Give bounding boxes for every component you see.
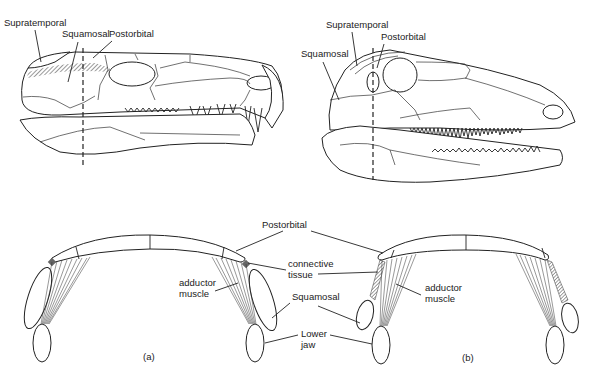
leader-adductor-b — [396, 284, 421, 295]
section-b-squamosal-left — [353, 298, 376, 331]
skull-b: Supratemporal Postorbital Squamosal — [301, 19, 575, 182]
section-a-lower-jaw-left — [33, 324, 51, 362]
section-b-lower-jaw-right — [546, 326, 564, 364]
section-a-lower-jaw-right — [246, 324, 264, 362]
label-adductor-b-line2: muscle — [425, 293, 455, 304]
leader-lower-jaw-b — [330, 335, 372, 344]
section-a-roof — [51, 235, 245, 262]
label-connective-line1: connective — [288, 258, 333, 269]
section-a-adductor-muscle-right — [212, 257, 256, 324]
panel-label-a: (a) — [143, 351, 155, 362]
leader-squamosal-b — [323, 62, 339, 100]
label-postorbital-section: Postorbital — [262, 219, 307, 230]
section-b: adductor muscle (b) — [353, 235, 581, 364]
section-b-lower-jaw-left — [372, 326, 390, 364]
skull-a-lower-jaw — [20, 114, 255, 154]
skull-b-lower-jaw — [322, 126, 563, 182]
figure: Supratemporal Squamosal Postorbital Su — [0, 0, 594, 377]
section-b-connective-tissue-right — [547, 260, 568, 303]
skull-b-naris — [543, 105, 563, 119]
leader-postorbital-b — [311, 231, 383, 253]
leader-adductor-a — [215, 283, 238, 291]
skull-a-orbit — [109, 62, 155, 86]
leader-postorbital-a — [236, 231, 283, 251]
section-b-squamosal-right — [559, 302, 581, 335]
section-a-squamosal-left — [19, 264, 58, 331]
section-b-connective-tissue-left — [370, 260, 385, 300]
diagram-canvas: Supratemporal Squamosal Postorbital Su — [0, 0, 594, 377]
leader-squamosal-b — [318, 306, 360, 323]
skull-b-orbit — [383, 58, 417, 92]
label-lower-jaw-line2: jaw — [300, 339, 315, 350]
section-a: adductor muscle (a) — [19, 235, 283, 362]
leader-lower-jaw-a — [265, 335, 298, 343]
skull-a-cranium — [22, 52, 283, 120]
label-postorbital-a: Postorbital — [109, 28, 154, 39]
label-lower-jaw-line1: Lower — [301, 328, 327, 339]
label-supratemporal-a: Supratemporal — [4, 17, 66, 28]
label-postorbital-b: Postorbital — [381, 31, 426, 42]
label-connective-line2: tissue — [288, 269, 313, 280]
label-squamosal-section: Squamosal — [292, 291, 340, 302]
section-b-roof — [378, 235, 549, 260]
skull-a: Supratemporal Squamosal Postorbital — [4, 17, 283, 165]
label-squamosal-a: Squamosal — [62, 28, 110, 39]
label-adductor-a-line2: muscle — [179, 288, 209, 299]
label-supratemporal-b: Supratemporal — [326, 19, 388, 30]
label-adductor-b-line1: adductor — [425, 282, 462, 293]
leader-connective-b — [318, 272, 378, 274]
skull-b-cranium — [329, 50, 575, 130]
leader-supratemporal-a — [35, 30, 41, 62]
label-squamosal-b: Squamosal — [301, 48, 349, 59]
label-adductor-a-line1: adductor — [179, 277, 216, 288]
panel-label-b: (b) — [462, 352, 474, 363]
